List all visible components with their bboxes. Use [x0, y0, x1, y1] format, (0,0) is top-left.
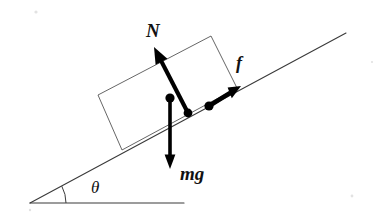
weight-force-arrowhead	[165, 155, 176, 170]
normal-force-vector	[154, 47, 192, 117]
friction-force-origin-dot	[204, 101, 213, 110]
normal-force-origin-dot	[184, 109, 193, 118]
block-rectangle	[98, 36, 237, 150]
weight-force-origin-dot	[165, 93, 174, 102]
figure-canvas: N f mg θ	[0, 0, 388, 219]
angle-arc	[62, 186, 66, 203]
angle-label: θ	[91, 178, 99, 197]
normal-force-label: N	[145, 20, 161, 41]
friction-force-label: f	[236, 53, 244, 73]
weight-force-vector	[165, 93, 176, 169]
friction-force-vector	[204, 86, 241, 111]
inclined-plane-diagram: N f mg θ	[0, 0, 388, 219]
normal-force-arrowhead	[154, 47, 167, 65]
weight-force-label: mg	[180, 163, 204, 184]
friction-force-arrowhead	[228, 86, 241, 98]
